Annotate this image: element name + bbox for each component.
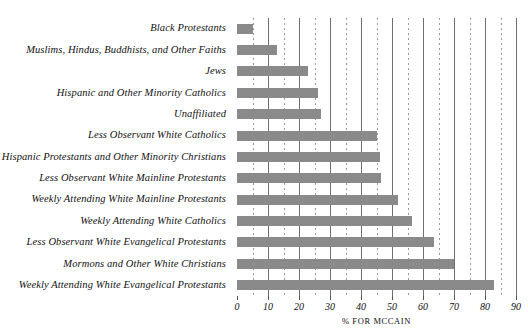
category-label: Muslims, Hindus, Buddhists, and Other Fa…: [0, 39, 232, 60]
x-axis: 0102030405060708090: [237, 296, 516, 316]
category-label: Less Observant White Mainline Protestant…: [0, 168, 232, 189]
bar: [237, 237, 434, 247]
category-label: Jews: [0, 61, 232, 82]
category-axis-labels: Black ProtestantsMuslims, Hindus, Buddhi…: [0, 18, 232, 296]
x-axis-title: % FOR MCCAIN: [237, 316, 516, 326]
bar-row: [237, 232, 516, 253]
bar-row: [237, 82, 516, 103]
category-label: Black Protestants: [0, 18, 232, 39]
x-tick-mark: [237, 296, 238, 300]
bar: [237, 195, 398, 205]
x-tick-label: 50: [387, 301, 397, 312]
bar: [237, 216, 412, 226]
bar: [237, 24, 253, 34]
category-label: Weekly Attending White Catholics: [0, 210, 232, 231]
bar-row: [237, 189, 516, 210]
x-tick-mark: [423, 296, 424, 300]
bar: [237, 280, 494, 290]
bar-row: [237, 39, 516, 60]
x-tick-mark: [268, 296, 269, 300]
bar: [237, 88, 318, 98]
category-label: Weekly Attending White Evangelical Prote…: [0, 275, 232, 296]
x-tick-label: 70: [449, 301, 459, 312]
bar-row: [237, 168, 516, 189]
plot-area: [237, 18, 516, 296]
x-tick-mark: [361, 296, 362, 300]
category-label: Less Observant White Catholics: [0, 125, 232, 146]
bar-row: [237, 61, 516, 82]
bar-row: [237, 104, 516, 125]
bar: [237, 66, 308, 76]
x-tick-mark: [516, 296, 517, 300]
category-label: Hispanic and Other Minority Catholics: [0, 82, 232, 103]
x-tick-label: 40: [356, 301, 366, 312]
category-label: Unaffiliated: [0, 104, 232, 125]
category-label: Hispanic Protestants and Other Minority …: [0, 146, 232, 167]
x-tick-mark: [330, 296, 331, 300]
x-tick-label: 20: [294, 301, 304, 312]
bar-series: [237, 18, 516, 296]
x-tick-label: 0: [235, 301, 240, 312]
bar-row: [237, 210, 516, 231]
bar: [237, 131, 377, 141]
gridline-major-90: [516, 18, 517, 296]
bar: [237, 109, 321, 119]
bar: [237, 45, 277, 55]
x-tick-mark: [485, 296, 486, 300]
bar-row: [237, 275, 516, 296]
bar: [237, 173, 381, 183]
x-tick-label: 60: [418, 301, 428, 312]
bar: [237, 259, 454, 269]
x-tick-label: 10: [263, 301, 273, 312]
x-tick-label: 90: [511, 301, 521, 312]
category-label: Less Observant White Evangelical Protest…: [0, 232, 232, 253]
category-label: Mormons and Other White Christians: [0, 253, 232, 274]
x-tick-mark: [299, 296, 300, 300]
category-label: Weekly Attending White Mainline Protesta…: [0, 189, 232, 210]
bar-row: [237, 125, 516, 146]
bar-row: [237, 253, 516, 274]
bar-row: [237, 146, 516, 167]
x-tick-label: 80: [480, 301, 490, 312]
x-tick-mark: [392, 296, 393, 300]
x-tick-mark: [454, 296, 455, 300]
x-tick-label: 30: [325, 301, 335, 312]
bar: [237, 152, 380, 162]
bar-row: [237, 18, 516, 39]
bar-chart: Black ProtestantsMuslims, Hindus, Buddhi…: [0, 0, 528, 331]
